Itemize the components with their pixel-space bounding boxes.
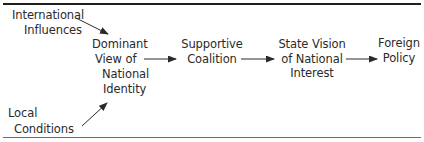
arrow-international-to-dominant	[76, 18, 108, 34]
arrows-layer	[0, 0, 424, 142]
arrow-local-to-dominant	[82, 103, 107, 126]
